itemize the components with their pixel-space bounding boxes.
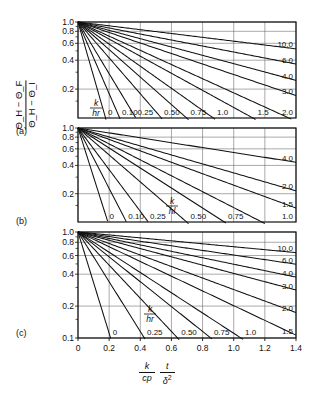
parameter-symbol-denominator: hl (169, 206, 177, 216)
curve-label-0: 0 (108, 108, 113, 117)
panel-letter-a: (a) (16, 126, 27, 136)
curve-label-0.25: 0.25 (147, 328, 163, 337)
curve-label-3.0: 3.0 (282, 282, 294, 291)
curve-label-1.0: 1.0 (245, 328, 257, 337)
curve-label-10.0: 10.0 (277, 40, 293, 49)
curve-1.5 (78, 22, 256, 119)
curve-label-4.0: 4.0 (282, 72, 294, 81)
y-axis-label: Θ_H − Θ_F Θ_H − Θ_I (2, 30, 48, 180)
curve-6.0 (78, 232, 296, 264)
x-tick-label: 1.0 (228, 343, 240, 353)
curve-label-0.75: 0.75 (191, 108, 207, 117)
y-axis-label-fraction: Θ_H − Θ_F Θ_H − Θ_I (14, 79, 36, 132)
x-tick-label: 1.2 (259, 343, 271, 353)
curve-0 (78, 128, 108, 221)
x-tick-label: 0.2 (103, 343, 115, 353)
x-tick-label: 0.4 (134, 343, 146, 353)
curve-label-4.0: 4.0 (282, 269, 294, 278)
curve-label-0: 0 (113, 328, 118, 337)
curve-label-6.0: 6.0 (282, 56, 294, 65)
panel-c: 1.00.80.60.40.20.100.250.500.751.01.52.0… (62, 227, 302, 353)
y-tick-label: 0.6 (62, 38, 74, 48)
panel-letter-c: (c) (16, 328, 27, 338)
y-tick-label: 0.8 (62, 26, 74, 36)
figure-root: 1.00.80.60.40.200.100.250.500.751.01.52.… (0, 0, 314, 397)
panel-frame (78, 128, 296, 222)
curve-0 (78, 22, 106, 120)
curve-label-0.25: 0.25 (150, 212, 166, 221)
y-tick-label: 0.2 (62, 189, 74, 199)
x-tick-label: 0 (76, 343, 81, 353)
curve-2.0 (78, 232, 296, 313)
y-tick-label: 0.8 (62, 132, 74, 142)
x-axis-label-term1: k cp (139, 362, 155, 384)
panel-b: 1.00.80.60.40.200.100.250.500.751.01.52.… (62, 123, 296, 224)
curve-0.25 (78, 22, 136, 118)
x-tick-label: 0.6 (166, 343, 178, 353)
x-axis-label-term2-numerator: t (163, 362, 172, 372)
curve-0.50 (78, 232, 179, 340)
curve-1.0 (78, 232, 243, 339)
y-tick-label: 0.1 (62, 333, 74, 343)
curve-label-2.0: 2.0 (282, 108, 294, 117)
y-tick-label: 0.4 (62, 55, 74, 65)
y-tick-label: 0.4 (62, 269, 74, 279)
curve-label-6.0: 6.0 (282, 256, 294, 265)
curve-label-0.50: 0.50 (164, 108, 180, 117)
curve-label-4.0: 4.0 (282, 154, 294, 163)
y-tick-label: 0.6 (62, 251, 74, 261)
y-tick-label: 1.0 (62, 227, 74, 237)
curve-label-1.5: 1.5 (282, 327, 294, 336)
y-tick-label: 0.2 (62, 84, 74, 94)
curve-label-0.50: 0.50 (191, 212, 207, 221)
curve-label-1.0: 1.0 (282, 212, 294, 221)
curve-0.75 (78, 128, 226, 223)
curve-label-1.5: 1.5 (282, 200, 294, 209)
curve-label-10.0: 10.0 (277, 244, 293, 253)
panel-a: 1.00.80.60.40.200.100.250.500.751.01.52.… (62, 17, 296, 120)
parameter-symbol-numerator: k (170, 196, 175, 206)
curve-label-0.25: 0.25 (138, 108, 154, 117)
panel-letter-b: (b) (16, 216, 27, 226)
curve-0 (78, 232, 111, 338)
x-axis-label-term2: t δ2 (160, 362, 175, 387)
curve-0.25 (78, 128, 148, 222)
y-axis-label-denominator: Θ_H − Θ_I (25, 80, 37, 130)
y-axis-label-numerator: Θ_H − Θ_F (14, 79, 25, 132)
curve-label-2.0: 2.0 (282, 304, 294, 313)
curve-label-3.0: 3.0 (282, 87, 294, 96)
x-axis-label-term1-denominator: cp (139, 372, 155, 383)
parameter-symbol-denominator: hr (92, 108, 101, 118)
y-tick-label: 0.4 (62, 160, 74, 170)
curve-label-1.0: 1.0 (217, 108, 229, 117)
curve-label-0.75: 0.75 (228, 212, 244, 221)
curve-label-0.50: 0.50 (181, 328, 197, 337)
y-tick-label: 0.6 (62, 144, 74, 154)
parameter-symbol-c: khr (144, 304, 156, 324)
y-tick-label: 0.8 (62, 237, 74, 247)
x-tick-label: 1.4 (290, 343, 302, 353)
curve-0.10 (78, 128, 126, 222)
x-axis-label-term2-denominator: δ2 (160, 372, 175, 386)
parameter-symbol-denominator: hr (146, 314, 155, 324)
curve-6.0 (78, 22, 296, 64)
curve-2.0 (78, 128, 296, 191)
curve-3.0 (78, 22, 296, 96)
parameter-symbol-numerator: k (94, 98, 99, 108)
x-axis-label-term1-numerator: k (142, 362, 153, 372)
parameter-symbol-numerator: k (148, 304, 153, 314)
y-tick-label: 0.2 (62, 301, 74, 311)
curve-1.5 (78, 128, 296, 208)
curve-3.0 (78, 232, 296, 290)
x-axis-label: k cp t δ2 (0, 362, 314, 387)
x-tick-label: 0.8 (197, 343, 209, 353)
curve-label-2.0: 2.0 (282, 182, 294, 191)
curve-label-1.5: 1.5 (258, 108, 270, 117)
curve-4.0 (78, 232, 296, 277)
curve-label-0: 0 (110, 212, 115, 221)
